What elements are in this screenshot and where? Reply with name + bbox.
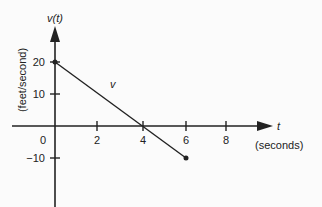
y-label-10: 10 [33,88,45,100]
x-label-2: 2 [94,134,100,146]
x-axis-unit: (seconds) [255,139,303,151]
y-axis-arrow-icon [50,26,60,42]
curve-label: v [110,78,117,90]
x-label-4: 4 [140,134,146,146]
x-axis-arrow-icon [257,121,273,131]
start-point [53,60,58,65]
x-label-0: 0 [40,134,46,146]
y-label-20: 20 [33,56,45,68]
y-axis-unit: (feet/second) [16,48,28,112]
y-label-neg10: −10 [26,152,45,164]
x-axis-title: t [277,120,281,132]
velocity-line [55,62,186,158]
velocity-chart: 0 2 4 6 8 20 10 −10 v(t) (feet/second) t… [0,0,322,207]
x-label-6: 6 [183,134,189,146]
end-point [184,156,189,161]
y-axis-title: v(t) [47,12,63,24]
x-label-8: 8 [223,134,229,146]
